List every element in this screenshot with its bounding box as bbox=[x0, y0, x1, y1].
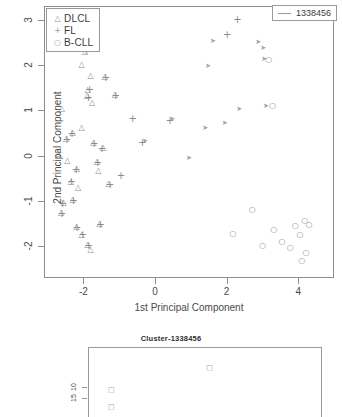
x-tick-label: 2 bbox=[224, 286, 230, 297]
y-tick-label: -1 bbox=[23, 193, 34, 209]
legend-item-dlcl: △ DLCL bbox=[51, 12, 93, 24]
legend-label-bcll: B-CLL bbox=[64, 37, 93, 48]
dash-icon bbox=[278, 13, 291, 14]
subpanel-data-point: □ bbox=[108, 386, 115, 394]
cluster-legend-label: 1338456 bbox=[296, 8, 331, 18]
x-axis-label: 1st Principal Component bbox=[44, 302, 334, 313]
y-tick-label: 0 bbox=[23, 148, 34, 164]
subpanel-frame bbox=[88, 347, 322, 417]
pca-scatter-panel: △△△△△△△△△△△△△△△△△△△△△△△△△△△△△△++++++++++… bbox=[0, 0, 342, 330]
y-tick-mark bbox=[38, 65, 44, 66]
y-tick-mark bbox=[38, 20, 44, 21]
circle-icon: ○ bbox=[51, 38, 64, 47]
y-tick-mark bbox=[38, 110, 44, 111]
legend-label-dlcl: DLCL bbox=[64, 13, 90, 24]
subpanel-y-tick-mark bbox=[82, 398, 87, 399]
cluster-subpanel: Cluster-1338456 □□□1015 bbox=[0, 330, 342, 386]
legend-label-fl: FL bbox=[64, 25, 76, 36]
x-tick-mark bbox=[155, 278, 156, 284]
x-tick-label: 0 bbox=[152, 286, 158, 297]
subpanel-title: Cluster-1338456 bbox=[0, 334, 342, 343]
subpanel-y-tick-mark bbox=[82, 387, 87, 388]
legend-item-fl: + FL bbox=[51, 24, 93, 36]
subpanel-data-point: □ bbox=[108, 403, 115, 411]
y-axis-label: 2nd Principal Component bbox=[52, 73, 63, 223]
x-tick-label: 4 bbox=[295, 286, 301, 297]
x-tick-mark bbox=[227, 278, 228, 284]
y-tick-label: 2 bbox=[23, 57, 34, 73]
y-tick-label: 1 bbox=[23, 102, 34, 118]
cluster-legend: 1338456 bbox=[272, 5, 337, 21]
subpanel-data-point: □ bbox=[206, 364, 213, 372]
x-tick-label: -2 bbox=[79, 286, 88, 297]
triangle-icon: △ bbox=[51, 14, 64, 23]
subpanel-y-tick-label: 15 bbox=[70, 391, 77, 405]
y-tick-mark bbox=[38, 201, 44, 202]
y-tick-label: -2 bbox=[23, 238, 34, 254]
x-tick-mark bbox=[298, 278, 299, 284]
y-tick-mark bbox=[38, 156, 44, 157]
plus-icon: + bbox=[51, 26, 64, 35]
x-tick-mark bbox=[83, 278, 84, 284]
legend-item-bcll: ○ B-CLL bbox=[51, 36, 93, 48]
group-legend: △ DLCL + FL ○ B-CLL bbox=[46, 8, 100, 52]
y-tick-label: 3 bbox=[23, 12, 34, 28]
y-tick-mark bbox=[38, 246, 44, 247]
